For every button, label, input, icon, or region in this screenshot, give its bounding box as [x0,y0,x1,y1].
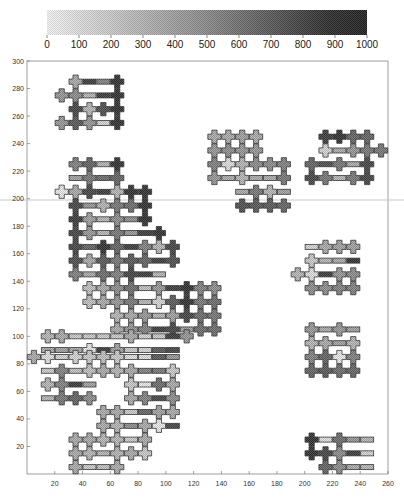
bar-marker-texture [125,437,138,442]
x-tick-label: 20 [51,480,59,487]
bar-marker-texture [333,258,346,263]
bar-marker-texture [319,258,332,263]
bar-marker-texture [347,451,360,456]
bar-marker-texture [125,410,138,415]
x-tick-label: 220 [327,480,339,487]
bar-marker-texture [139,382,152,387]
bar-marker-texture [97,465,110,470]
x-tick-label: 140 [216,480,228,487]
colorbar-tick-label: 200 [103,39,120,50]
bar-marker-texture [139,334,152,339]
bar-marker-texture [83,465,96,470]
y-tick-label: 200 [12,195,24,202]
colorbar-tick-label: 600 [231,39,248,50]
bar-marker-texture [166,348,179,353]
bar-marker-texture [152,334,165,339]
bar-marker-texture [139,231,152,236]
x-tick-label: 160 [243,480,255,487]
bar-marker-texture [97,93,110,98]
bar-marker-texture [139,410,152,415]
colorbar-dither-overlay [47,10,367,35]
y-tick-label: 180 [12,223,24,230]
plot-axes: 20406080100120140160180200220240260 2040… [0,58,404,488]
bar-marker-texture [125,354,138,359]
bar-marker-texture [125,348,138,353]
bar-marker-texture [41,396,54,401]
x-tick-label: 40 [79,480,87,487]
bar-marker-texture [139,272,152,277]
x-tick-label: 120 [188,480,200,487]
bar-marker-texture [97,189,110,194]
bar-marker-texture [152,327,165,332]
colorbar-tick-label: 900 [327,39,344,50]
bar-marker-texture [125,423,138,428]
figure: 01002003004005006007008009001000 2040608… [0,0,404,498]
bar-marker-texture [55,348,68,353]
y-tick-label: 100 [12,333,24,340]
bar-marker-texture [152,272,165,277]
y-axis-ticks: 2040608010012014016018020022024026028030… [12,58,30,450]
bar-marker-texture [139,368,152,373]
bar-marker-texture [250,176,263,181]
y-tick-label: 260 [12,113,24,120]
bar-marker-texture [152,348,165,353]
bar-marker-texture [69,334,82,339]
bar-marker-texture [97,162,110,167]
bar-marker-texture [333,176,346,181]
colorbar-tick-label: 0 [44,39,50,50]
bar-marker-texture [347,465,360,470]
x-tick-label: 200 [299,480,311,487]
colorbar-tick-label: 300 [135,39,152,50]
y-tick-label: 280 [12,85,24,92]
y-tick-label: 40 [16,415,24,422]
bar-marker-texture [152,313,165,318]
x-tick-label: 180 [271,480,283,487]
colorbar-tick-label: 800 [295,39,312,50]
bar-marker-texture [305,244,318,249]
bar-marker-texture [361,437,374,442]
bar-marker-texture [319,162,332,167]
bar-marker-texture [166,286,179,291]
bar-marker-texture [139,354,152,359]
bar-marker-texture [166,423,179,428]
y-tick-label: 60 [16,388,24,395]
bar-marker-texture [83,272,96,277]
colorbar-tick-label: 100 [71,39,88,50]
bar-marker-texture [83,244,96,249]
bar-marker-texture [97,79,110,84]
bar-marker-texture [333,341,346,346]
bar-marker-texture [347,437,360,442]
bar-marker-texture [55,354,68,359]
bar-marker-texture [97,231,110,236]
bar-marker-texture [139,286,152,291]
bar-marker-texture [83,334,96,339]
bar-marker-texture [152,354,165,359]
bar-marker-texture [97,120,110,125]
bar-marker-texture [97,334,110,339]
bar-marker-texture [347,162,360,167]
bar-marker-texture [166,354,179,359]
colorbar-tick-label: 500 [199,39,216,50]
bar-marker-texture [125,217,138,222]
colorbar-tick-label: 1000 [356,39,379,50]
bar-marker-texture [277,189,290,194]
bar-marker-texture [111,334,124,339]
bar-marker-texture [236,189,249,194]
bar-marker-texture [125,244,138,249]
bar-marker-texture [319,437,332,442]
bar-marker-texture [97,176,110,181]
bar-marker-texture [347,327,360,332]
bar-marker-texture [83,79,96,84]
bar-marker-texture [347,258,360,263]
bar-marker-texture [166,334,179,339]
y-tick-label: 120 [12,305,24,312]
bar-marker-texture [152,368,165,373]
y-tick-label: 80 [16,360,24,367]
x-tick-label: 60 [106,480,114,487]
bar-marker-texture [263,176,276,181]
x-tick-label: 260 [382,480,394,487]
bar-marker-texture [152,258,165,263]
bar-marker-texture [125,231,138,236]
x-tick-label: 100 [160,480,172,487]
bar-marker-texture [69,176,82,181]
